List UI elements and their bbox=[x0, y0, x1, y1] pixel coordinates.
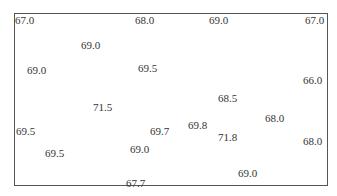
value-label: 67.0 bbox=[305, 14, 324, 26]
value-label: 68.0 bbox=[303, 135, 322, 147]
value-label: 69.5 bbox=[138, 62, 157, 74]
map-frame bbox=[14, 13, 328, 186]
value-label: 69.7 bbox=[150, 125, 169, 137]
value-label: 69.0 bbox=[209, 14, 228, 26]
value-label: 69.8 bbox=[188, 119, 207, 131]
value-label: 71.8 bbox=[218, 131, 237, 143]
value-label: 69.0 bbox=[238, 167, 257, 179]
value-label: 68.0 bbox=[135, 14, 154, 26]
value-label: 66.0 bbox=[303, 74, 322, 86]
value-label: 67.7 bbox=[126, 177, 145, 189]
value-label: 69.5 bbox=[45, 147, 64, 159]
value-label: 69.0 bbox=[130, 143, 149, 155]
value-label: 69.5 bbox=[16, 125, 35, 137]
value-label: 69.0 bbox=[27, 64, 46, 76]
value-label: 67.0 bbox=[15, 14, 34, 26]
value-label: 69.0 bbox=[81, 39, 100, 51]
value-label: 68.0 bbox=[265, 112, 284, 124]
value-label: 71.5 bbox=[93, 101, 112, 113]
value-label: 68.5 bbox=[218, 92, 237, 104]
